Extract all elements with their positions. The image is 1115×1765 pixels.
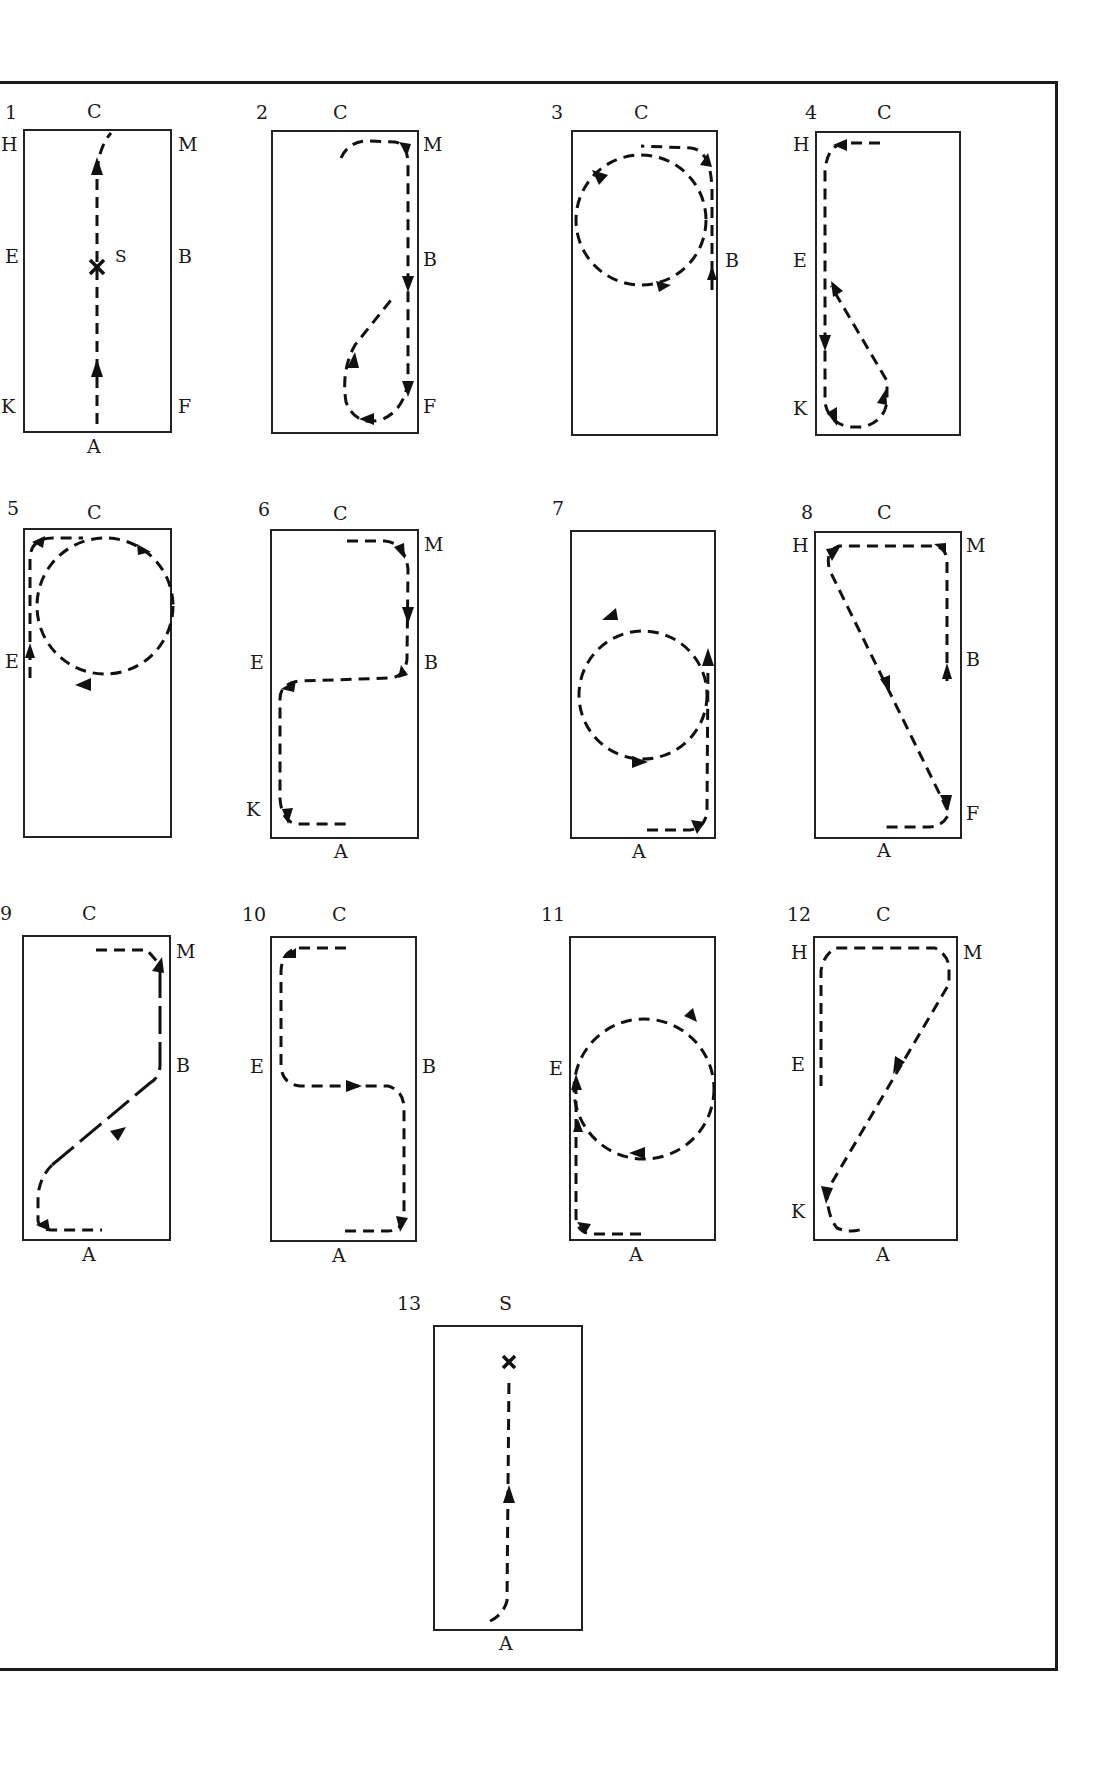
arrow-right-icon xyxy=(346,1080,362,1092)
arena-diagram xyxy=(270,529,419,839)
panel-number: 13 xyxy=(397,1293,421,1313)
panel-number: 7 xyxy=(552,498,564,518)
letter-h: H xyxy=(793,134,810,154)
letter-c: C xyxy=(634,102,649,122)
letter-m: M xyxy=(966,535,985,555)
letter-a: A xyxy=(499,1633,513,1653)
arrow-down-icon xyxy=(399,142,411,156)
panel-number: 2 xyxy=(256,102,268,122)
arrow-left-icon xyxy=(592,170,608,185)
arrow-up-icon xyxy=(25,643,35,658)
arrow-left-icon xyxy=(282,948,296,958)
letter-m: M xyxy=(178,134,197,154)
panel-number: 4 xyxy=(805,102,817,122)
arena-diagram xyxy=(569,936,716,1241)
letter-e: E xyxy=(250,652,264,672)
letter-c: C xyxy=(876,904,891,924)
letter-k: K xyxy=(793,398,807,418)
arena-diagram xyxy=(23,129,172,433)
arrow-up-icon xyxy=(503,1485,515,1503)
arrow-left-icon xyxy=(75,678,91,691)
letter-b: B xyxy=(178,246,192,266)
letter-b: B xyxy=(424,652,438,672)
letter-h: H xyxy=(791,942,808,962)
arrow-down-icon xyxy=(402,381,414,397)
arrow-up-icon xyxy=(877,389,887,405)
panel-number: 10 xyxy=(242,904,266,924)
arena-diagram xyxy=(815,131,961,436)
letter-k: K xyxy=(1,396,15,416)
letter-f: F xyxy=(178,396,191,416)
letter-a: A xyxy=(877,840,891,860)
arena-diagram xyxy=(570,530,716,839)
arrow-left-icon xyxy=(359,413,374,425)
letter-b: B xyxy=(423,249,437,269)
panel-3: 3 C B xyxy=(571,130,718,436)
x-marker-icon xyxy=(503,1356,515,1368)
frame-top-border xyxy=(0,81,1058,84)
arrow-down-icon xyxy=(396,1216,408,1232)
letter-b: B xyxy=(966,649,980,669)
letter-k: K xyxy=(791,1201,805,1221)
panel-11: 11 E A xyxy=(569,936,716,1241)
arrow-right-icon xyxy=(684,1008,697,1022)
panel-9: 9 C M B A xyxy=(22,935,171,1241)
arrow-up-icon xyxy=(702,648,714,666)
arena-diagram xyxy=(22,935,171,1241)
panel-4: 4 C H E K xyxy=(815,131,961,436)
letter-a: A xyxy=(632,841,646,861)
frame-bottom-border xyxy=(0,1668,1058,1671)
letter-a: A xyxy=(876,1244,890,1264)
letter-c: C xyxy=(333,102,348,122)
letter-a: A xyxy=(629,1244,643,1264)
panel-number: 11 xyxy=(541,904,565,924)
panel-number: 6 xyxy=(258,499,270,519)
letter-m: M xyxy=(176,941,195,961)
arrow-down-icon xyxy=(402,607,414,624)
arena-diagram xyxy=(271,130,419,434)
letter-c: C xyxy=(82,903,97,923)
panel-number: 8 xyxy=(801,502,813,522)
panel-number: 5 xyxy=(7,498,19,518)
arena-diagram xyxy=(571,130,718,436)
arrow-left-icon xyxy=(833,139,847,151)
panel-8: 8 C H M B F A xyxy=(814,531,962,839)
arrow-down-icon xyxy=(819,335,831,351)
letter-f: F xyxy=(966,803,979,823)
letter-e: E xyxy=(791,1054,805,1074)
letter-e: E xyxy=(250,1056,264,1076)
panel-1: 1 C A H E K M B F S xyxy=(23,129,172,433)
letter-e: E xyxy=(5,651,19,671)
panel-7: 7 A xyxy=(570,530,716,839)
arrow-down-icon xyxy=(402,276,414,292)
arrow-right-icon xyxy=(394,543,405,559)
letter-c: C xyxy=(333,503,348,523)
letter-m: M xyxy=(423,134,442,154)
arena-diagram xyxy=(813,936,958,1241)
letter-e: E xyxy=(793,250,807,270)
letter-f: F xyxy=(423,396,436,416)
letter-s: S xyxy=(499,1293,512,1313)
arrow-down-icon xyxy=(691,820,705,834)
letter-b: B xyxy=(422,1056,436,1076)
arrow-down-icon xyxy=(821,1186,833,1204)
panel-13: 13 S A xyxy=(433,1325,583,1631)
letter-e: E xyxy=(549,1058,563,1078)
panel-number: 12 xyxy=(787,904,811,924)
arrow-up-icon xyxy=(942,663,952,679)
panel-number: 1 xyxy=(5,102,17,122)
letter-c: C xyxy=(877,102,892,122)
letter-a: A xyxy=(334,841,348,861)
letter-b: B xyxy=(725,250,739,270)
letter-h: H xyxy=(1,134,18,154)
arena-diagram xyxy=(814,531,962,839)
arena-diagram xyxy=(270,936,417,1242)
panel-number: 3 xyxy=(551,102,563,122)
arrow-up-icon xyxy=(91,359,103,377)
arena-diagram xyxy=(23,528,172,838)
letter-c: C xyxy=(332,904,347,924)
arrow-down-icon xyxy=(934,543,946,553)
panel-5: 5 C E xyxy=(23,528,172,838)
arrow-up-icon xyxy=(91,157,103,175)
letter-h: H xyxy=(792,535,809,555)
